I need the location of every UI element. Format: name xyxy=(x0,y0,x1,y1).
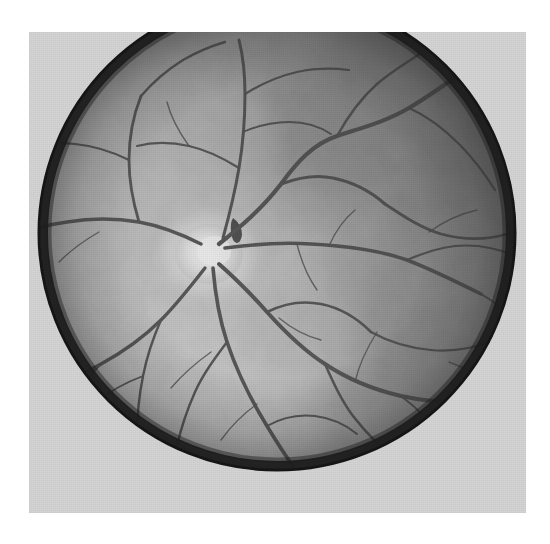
fundus-photograph xyxy=(29,32,526,513)
fundus-image xyxy=(29,32,526,513)
page-root xyxy=(0,0,550,544)
halftone-grain xyxy=(29,32,526,513)
vessel-it-branch-2a xyxy=(401,464,451,488)
retina-interior xyxy=(29,32,526,513)
